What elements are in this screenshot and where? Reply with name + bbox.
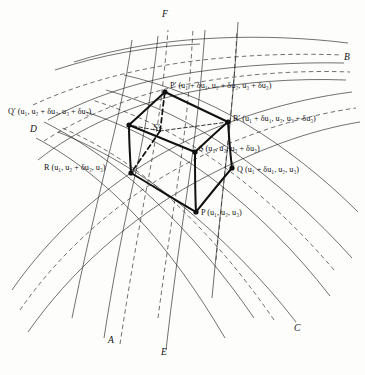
vertex-dot-s bbox=[192, 149, 197, 154]
curve-family-three-dashed bbox=[120, 28, 237, 344]
curve-label-b: B bbox=[344, 53, 350, 63]
vertex-dot-r bbox=[128, 170, 133, 175]
coordinate-curve-solid bbox=[74, 37, 348, 62]
curve-label-a: A bbox=[108, 336, 114, 346]
vertex-label-s: S (u₁, u₂, u₃ + δu₃) bbox=[199, 145, 260, 153]
coordinate-curve-solid bbox=[58, 132, 296, 322]
curve-family-three bbox=[72, 22, 238, 350]
diagram-svg bbox=[0, 0, 365, 375]
diagram-canvas: P′ (u₁ + δu₁, u₂ + δu₂, u₃ + δu₃) R′ (u₁… bbox=[0, 0, 365, 375]
cell-edge-p-s bbox=[195, 152, 196, 212]
vertex-label-rprime: R′ (u₁ + δu₁, u₂, u₃ + δu₃) bbox=[233, 115, 316, 123]
vertex-label-q: Q (u₁ + δu₁, u₂, u₃) bbox=[237, 166, 299, 174]
curve-label-e: E bbox=[161, 348, 167, 358]
vertex-dot-p bbox=[193, 209, 198, 214]
cell-edge-s-qprime bbox=[129, 125, 195, 152]
coordinate-curve-dashed bbox=[62, 128, 274, 320]
coordinate-curve-solid bbox=[48, 63, 344, 120]
coordinate-curve-solid bbox=[166, 30, 205, 350]
vertex-dot-qprime bbox=[126, 122, 131, 127]
cell-edge-p-r bbox=[131, 173, 196, 212]
coordinate-curve-dashed bbox=[120, 30, 168, 344]
cell-edge-rprime-pprime bbox=[165, 92, 228, 122]
vertex-label-qprime: Q′ (u₁, u₂ + δu₂, u₃ + δu₃) bbox=[8, 108, 91, 116]
vertex-dot-rprime bbox=[225, 119, 230, 124]
curve-label-c: C bbox=[294, 324, 300, 334]
vertex-label-sprime: S′ bbox=[153, 123, 159, 132]
cell-hidden-edges-thin bbox=[129, 122, 228, 131]
vertex-dot-q bbox=[229, 165, 234, 170]
coordinate-curve-solid bbox=[55, 44, 200, 70]
curve-label-d: D bbox=[30, 125, 37, 135]
curve-label-f: F bbox=[162, 10, 168, 20]
vertex-label-p: P (u₁, u₂, u₃) bbox=[201, 209, 242, 217]
cell-edge-r-qprime bbox=[129, 125, 131, 173]
coordinate-curve-solid bbox=[212, 22, 238, 298]
vertex-label-r: R (u₁, u₂ + δu₂, u₃) bbox=[44, 164, 106, 172]
vertex-dot-pprime bbox=[162, 89, 167, 94]
coordinate-curve-solid bbox=[72, 40, 132, 318]
vertex-label-pprime: P′ (u₁ + δu₁, u₂ + δu₂, u₃ + δu₃) bbox=[170, 82, 271, 90]
